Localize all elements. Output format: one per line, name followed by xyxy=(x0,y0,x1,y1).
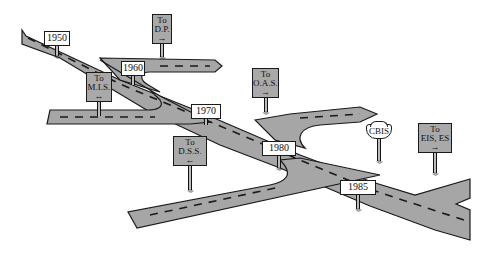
grass-icon: ʷʬʷ xyxy=(276,166,281,172)
grass-icon: ʷʬʷ xyxy=(355,207,360,213)
shield-label: CBIS xyxy=(367,127,391,136)
year-label: 1970 xyxy=(192,105,220,118)
year-label: 1980 xyxy=(263,142,295,155)
route-shield-cbis: CBIS ʷʬʷ xyxy=(366,124,392,165)
sign-post xyxy=(433,153,437,173)
direction-sign-oas: To O.A.S. → ʷʬʷ xyxy=(252,68,279,116)
road-diagram: 1950 ʷʬʷ To D.P. → ʷʬʷ 1960 To M.I.S. ↔ … xyxy=(0,0,494,257)
direction-sign-dp: To D.P. → ʷʬʷ xyxy=(152,14,172,61)
year-marker-1980: 1980 ʷʬʷ xyxy=(262,141,296,172)
arrow-both-icon: ↔ xyxy=(87,93,111,100)
year-marker-1970: 1970 xyxy=(191,104,221,125)
grass-icon: ʷʬʷ xyxy=(187,188,192,194)
sign-post xyxy=(131,76,135,85)
direction-sign-dss: To D.S.S. ← ʷʬʷ xyxy=(173,136,207,194)
year-label: 1985 xyxy=(341,181,375,194)
grass-icon: ʷʬʷ xyxy=(376,159,381,165)
grass-icon: ʷʬʷ xyxy=(54,54,59,60)
year-label: 1960 xyxy=(122,62,144,75)
sign-post xyxy=(97,102,101,116)
grass-icon: ʷʬʷ xyxy=(432,171,437,177)
main-highway xyxy=(22,30,470,240)
arrow-right-icon: → xyxy=(419,144,451,151)
arrow-left-icon: ← xyxy=(174,157,206,164)
direction-sign-mis: To M.I.S. ↔ xyxy=(86,72,112,116)
arrow-right-icon: → xyxy=(253,89,278,96)
year-marker-1950: 1950 ʷʬʷ xyxy=(44,31,70,60)
sign-post xyxy=(377,139,381,161)
sign-post xyxy=(204,119,208,125)
year-label: 1950 xyxy=(45,32,69,45)
grass-icon: ʷʬʷ xyxy=(263,110,268,116)
year-marker-1985: 1985 ʷʬʷ xyxy=(340,180,376,213)
sign-post xyxy=(188,166,192,190)
grass-icon: ʷʬʷ xyxy=(159,55,164,61)
arrow-right-icon: → xyxy=(153,35,171,42)
year-marker-1960: 1960 xyxy=(121,61,145,85)
direction-sign-eis-es: To EIS, ES → ʷʬʷ xyxy=(418,123,452,177)
